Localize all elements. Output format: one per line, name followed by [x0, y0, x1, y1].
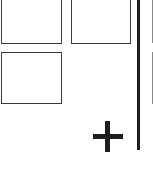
right-panel-edge-top [152, 0, 153, 43]
tile-1[interactable] [1, 0, 62, 44]
plus-icon-vertical [105, 121, 110, 152]
panel-divider[interactable] [137, 0, 140, 150]
right-panel-edge-bottom [152, 52, 153, 104]
tile-3[interactable] [1, 52, 62, 104]
add-tile-button[interactable] [92, 120, 124, 153]
tile-2[interactable] [71, 0, 131, 44]
